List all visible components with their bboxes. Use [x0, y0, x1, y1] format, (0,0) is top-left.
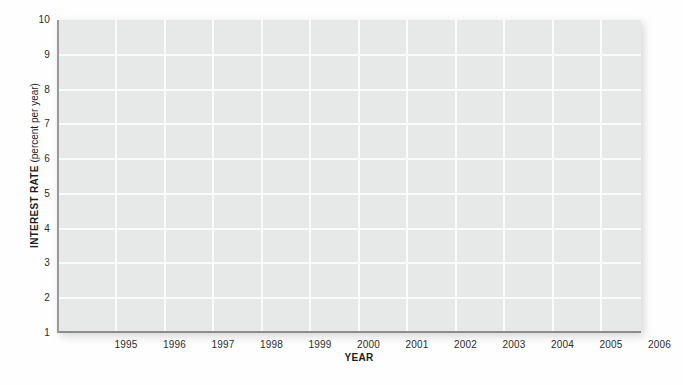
gridline-horizontal: [59, 228, 641, 230]
gridline-vertical: [309, 20, 311, 331]
gridline-horizontal: [59, 89, 641, 91]
y-axis-tick-label: 1: [10, 327, 50, 338]
x-axis-tick-label: 2006: [637, 339, 683, 350]
x-axis-tick-label: 2002: [443, 339, 489, 350]
gridline-horizontal: [59, 193, 641, 195]
gridline-vertical: [115, 20, 117, 331]
x-axis-tick-label: 2005: [588, 339, 634, 350]
gridline-horizontal: [59, 123, 641, 125]
gridline-vertical: [406, 20, 408, 331]
gridline-vertical: [600, 20, 602, 331]
x-axis-tick-label: 2003: [491, 339, 537, 350]
gridline-vertical: [212, 20, 214, 331]
y-axis-title-main: INTEREST RATE: [29, 165, 40, 248]
gridline-horizontal: [59, 297, 641, 299]
gridline-vertical: [552, 20, 554, 331]
x-axis-tick-label: 1998: [249, 339, 295, 350]
plot-area: [57, 20, 641, 333]
x-axis-tick-label: 1999: [297, 339, 343, 350]
gridline-horizontal: [59, 54, 641, 56]
y-axis-title: INTEREST RATE (percent per year): [29, 66, 40, 266]
chart-figure: 10987654321 1995199619971998199920002001…: [0, 0, 683, 385]
x-axis-tick-label: 1997: [200, 339, 246, 350]
y-axis-tick-label: 10: [10, 14, 50, 25]
x-axis-tick-label: 1996: [152, 339, 198, 350]
y-axis-tick-label: 9: [10, 49, 50, 60]
gridline-vertical: [455, 20, 457, 331]
gridline-horizontal: [59, 262, 641, 264]
x-axis-tick-label: 2004: [540, 339, 586, 350]
y-axis-title-unit-text: (percent per year): [29, 83, 40, 162]
gridline-vertical: [261, 20, 263, 331]
x-axis-tick-label: 2001: [394, 339, 440, 350]
gridline-vertical: [358, 20, 360, 331]
gridline-vertical: [503, 20, 505, 331]
x-axis-title: YEAR: [329, 352, 389, 363]
y-axis-tick-label: 2: [10, 292, 50, 303]
gridline-horizontal: [59, 158, 641, 160]
y-axis-title-unit: [29, 163, 40, 166]
x-axis-tick-label: 1995: [103, 339, 149, 350]
gridline-vertical: [164, 20, 166, 331]
x-axis-tick-label: 2000: [346, 339, 392, 350]
